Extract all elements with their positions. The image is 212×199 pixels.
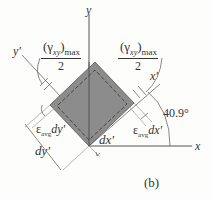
dimension-label-dy: dy' (35, 144, 50, 157)
y-axis-label: y (86, 4, 91, 16)
strain-element-figure: y x x' y' (γxy)max 2 (γxy)max 2 εavgdy' … (0, 0, 212, 199)
y-prime-axis-label: y' (13, 45, 21, 57)
shear-label-left: (γxy)max 2 (41, 40, 81, 72)
panel-label: (b) (144, 176, 159, 189)
dimension-label-dx: dx' (99, 133, 114, 146)
x-prime-axis-label: x' (150, 70, 158, 82)
strain-label-dy: εavgdy' (36, 123, 65, 138)
angle-label: 40.9° (163, 107, 189, 119)
x-axis-label: x (195, 140, 200, 152)
strain-label-dx: εavgdx' (133, 124, 162, 139)
diagram-graphics (0, 0, 212, 199)
shear-label-right: (γxy)max 2 (118, 40, 158, 72)
